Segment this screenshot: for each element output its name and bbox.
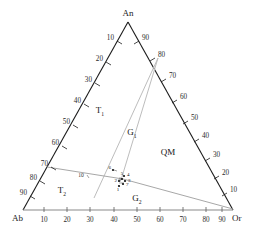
divider-g2-or [123,179,233,209]
field-label-t2: T2 [58,185,67,197]
vertex-label-or: Or [232,213,242,223]
left-tick-90: 90 [20,189,28,197]
right-tick-90: 90 [142,34,150,42]
bottom-tick-80: 80 [202,216,210,224]
right-tick-60: 60 [180,93,188,101]
data-point-6-marker [112,169,114,171]
bottom-tick-90: 90 [218,216,226,224]
divider-t1-g1 [94,58,158,198]
divider-t2-g2 [47,167,123,179]
left-edge-ticks: 10 20 30 40 50 60 70 80 90 [20,34,122,199]
bottom-tick-20: 20 [63,216,71,224]
left-tick-30: 30 [85,76,93,84]
divider-g1-qm [121,58,158,180]
field-label-qm: QM [161,147,176,157]
bottom-tick-10: 10 [40,216,48,224]
data-point-4-label: 4 [127,172,130,177]
data-point-6-label: 6 [109,165,112,170]
bottom-tick-40: 40 [110,216,118,224]
vertex-label-an: An [123,8,134,18]
ternary-diagram: An Ab Or 10 20 30 40 50 60 70 80 90 [0,0,257,239]
field-label-g1: G1 [127,127,137,139]
right-tick-30: 30 [213,151,221,159]
field-label-t1: T1 [96,105,105,117]
right-tick-50: 50 [191,114,199,122]
left-tick-70: 70 [41,160,49,168]
right-tick-70: 70 [169,72,177,80]
left-tick-40: 40 [74,97,82,105]
bottom-tick-70: 70 [179,216,187,224]
right-tick-80: 80 [158,51,166,59]
ternary-plot-svg: An Ab Or 10 20 30 40 50 60 70 80 90 [0,0,257,239]
right-tick-40: 40 [202,132,210,140]
data-point-5-marker [121,178,123,180]
bottom-tick-30: 30 [86,216,94,224]
vertex-label-ab: Ab [12,213,23,223]
left-tick-60: 60 [52,139,60,147]
field-label-g2: G2 [132,193,142,205]
data-point-2-label: 2 [115,178,118,183]
inner-annotation-10: 10 [78,172,84,178]
right-edge-ticks: 90 80 70 60 50 40 30 20 10 [134,34,238,196]
inner-annotation-group: 10 [78,172,89,178]
bottom-tick-60: 60 [156,216,164,224]
left-tick-20: 20 [96,55,104,63]
left-tick-10: 10 [107,34,115,42]
bottom-tick-50: 50 [133,216,141,224]
left-tick-80: 80 [30,174,38,182]
data-point-1-label: 1 [117,187,120,192]
right-tick-10: 10 [230,186,238,194]
left-tick-50: 50 [63,118,71,126]
right-tick-20: 20 [222,169,230,177]
